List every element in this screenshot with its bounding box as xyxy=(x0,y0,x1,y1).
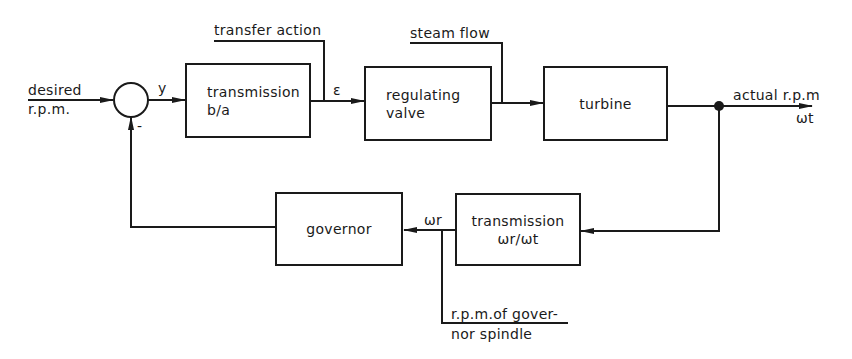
input-label-desired: desired xyxy=(28,82,82,98)
spindle-annotation-line2: nor spindle xyxy=(451,326,532,342)
block-transmission-feedback: transmission ωr/ωt xyxy=(455,193,581,266)
block-turbine-label: turbine xyxy=(579,95,631,113)
block-regulating-valve: regulating valve xyxy=(364,66,492,141)
block-transmission-ba-line1: transmission xyxy=(207,83,300,101)
block-transmission-feedback-line2: ωr/ωt xyxy=(498,230,539,248)
pickoff-point xyxy=(714,101,724,111)
block-regulating-valve-line2: valve xyxy=(386,104,425,122)
input-label-rpm: r.p.m. xyxy=(28,101,70,117)
block-regulating-valve-line1: regulating xyxy=(386,86,460,104)
block-governor: governor xyxy=(275,192,403,266)
block-transmission-ba: transmission b/a xyxy=(185,63,311,138)
signal-omega-r-label: ωr xyxy=(424,212,442,228)
minus-sign: - xyxy=(137,118,142,134)
block-transmission-ba-line2: b/a xyxy=(207,101,230,119)
output-label-omega-t: ωt xyxy=(796,110,814,126)
summing-junction xyxy=(114,83,148,117)
output-label-actual-rpm: actual r.p.m xyxy=(733,87,820,103)
block-governor-label: governor xyxy=(306,220,371,238)
block-transmission-feedback-line1: transmission xyxy=(471,212,564,230)
steam-flow-label: steam flow xyxy=(410,25,490,41)
signal-epsilon-label: ε xyxy=(333,82,341,98)
block-turbine: turbine xyxy=(543,66,668,141)
spindle-annotation-line1: r.p.m.of gover- xyxy=(451,306,558,322)
block-diagram-lines xyxy=(0,0,852,359)
feedback-line-1 xyxy=(716,106,719,231)
transfer-action-label: transfer action xyxy=(214,22,321,38)
signal-y-label: y xyxy=(158,80,167,96)
